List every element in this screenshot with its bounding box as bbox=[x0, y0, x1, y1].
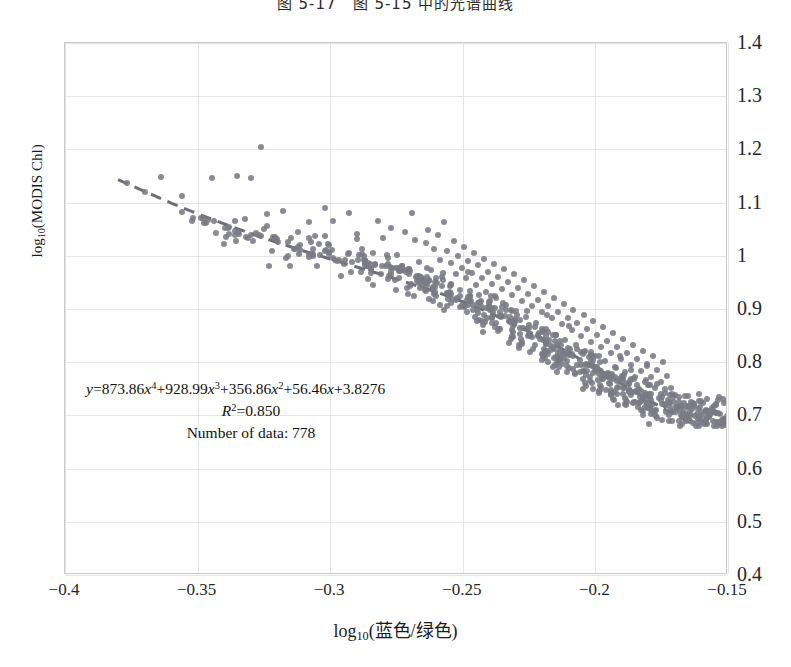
scatter-point bbox=[432, 289, 438, 295]
scatter-point bbox=[561, 355, 567, 361]
scatter-point bbox=[636, 387, 642, 393]
scatter-point bbox=[431, 246, 437, 252]
scatter-point bbox=[578, 333, 584, 339]
scatter-point bbox=[559, 321, 565, 327]
scatter-point bbox=[358, 269, 364, 275]
scatter-point bbox=[322, 205, 328, 211]
scatter-point bbox=[213, 230, 219, 236]
scatter-point bbox=[264, 211, 270, 217]
scatter-point bbox=[630, 342, 636, 348]
scatter-point bbox=[555, 309, 561, 315]
scatter-point bbox=[489, 281, 495, 287]
scatter-point bbox=[524, 308, 530, 314]
scatter-point bbox=[349, 259, 355, 265]
scatter-point bbox=[541, 289, 547, 295]
scatter-point bbox=[721, 400, 726, 406]
scatter-point bbox=[463, 275, 469, 281]
scatter-point bbox=[598, 344, 604, 350]
scatter-point bbox=[684, 403, 690, 409]
scatter-point bbox=[713, 401, 719, 407]
scatter-point bbox=[486, 299, 492, 305]
scatter-point bbox=[604, 338, 610, 344]
scatter-point bbox=[430, 298, 436, 304]
scatter-point bbox=[461, 244, 467, 250]
scatter-point bbox=[619, 375, 625, 381]
scatter-point bbox=[628, 367, 634, 373]
scatter-point bbox=[499, 286, 505, 292]
scatter-point bbox=[581, 312, 587, 318]
scatter-point bbox=[264, 223, 270, 229]
scatter-point bbox=[610, 376, 616, 382]
x-tick-label: −0.15 bbox=[707, 580, 746, 600]
scatter-point bbox=[412, 237, 418, 243]
scatter-point bbox=[475, 262, 481, 268]
scatter-point bbox=[124, 180, 130, 186]
scatter-point bbox=[248, 175, 254, 181]
scatter-point bbox=[221, 241, 227, 247]
scatter-point bbox=[516, 342, 522, 348]
scatter-point bbox=[471, 250, 477, 256]
scatter-point bbox=[416, 280, 422, 286]
scatter-point bbox=[530, 346, 536, 352]
scatter-point bbox=[620, 391, 626, 397]
scatter-point bbox=[662, 402, 668, 408]
scatter-point bbox=[495, 274, 501, 280]
scatter-point bbox=[296, 251, 302, 257]
scatter-point bbox=[583, 372, 589, 378]
scatter-point bbox=[523, 314, 529, 320]
scatter-point bbox=[570, 307, 576, 313]
scatter-point bbox=[285, 253, 291, 259]
scatter-point bbox=[501, 266, 507, 272]
scatter-point bbox=[596, 353, 602, 359]
scatter-point bbox=[614, 344, 620, 350]
y-tick-label: 1.1 bbox=[737, 190, 762, 213]
r-squared-line: R2=0.850 bbox=[86, 400, 416, 422]
scatter-point bbox=[704, 396, 710, 402]
scatter-point bbox=[370, 282, 376, 288]
y-tick-label: 0.6 bbox=[737, 456, 762, 479]
scatter-point bbox=[242, 216, 248, 222]
scatter-point bbox=[570, 366, 576, 372]
scatter-point bbox=[602, 358, 608, 364]
scatter-point bbox=[644, 363, 650, 369]
scatter-point bbox=[594, 332, 600, 338]
scatter-point bbox=[505, 279, 511, 285]
scatter-point bbox=[515, 285, 521, 291]
scatter-point bbox=[480, 329, 486, 335]
scatter-point bbox=[190, 215, 196, 221]
scatter-point bbox=[316, 241, 322, 247]
scatter-point bbox=[444, 248, 450, 254]
scatter-point bbox=[511, 271, 517, 277]
scatter-point bbox=[500, 300, 506, 306]
scatter-point bbox=[620, 336, 626, 342]
scatter-point bbox=[233, 238, 239, 244]
scatter-point bbox=[588, 339, 594, 345]
scatter-point bbox=[362, 257, 368, 263]
scatter-point bbox=[448, 260, 454, 266]
scatter-point bbox=[295, 229, 301, 235]
scatter-point bbox=[669, 391, 675, 397]
y-tick-label: 1 bbox=[737, 243, 747, 266]
scatter-point bbox=[574, 320, 580, 326]
scatter-point bbox=[649, 408, 655, 414]
scatter-point bbox=[423, 288, 429, 294]
y-tick-label: 1.3 bbox=[737, 84, 762, 107]
y-tick-label: 0.9 bbox=[737, 297, 762, 320]
scatter-point bbox=[211, 218, 217, 224]
scatter-point bbox=[608, 350, 614, 356]
scatter-point bbox=[236, 231, 242, 237]
scatter-point bbox=[481, 256, 487, 262]
scatter-point bbox=[662, 386, 668, 392]
scatter-point bbox=[658, 397, 664, 403]
scatter-point bbox=[551, 355, 557, 361]
scatter-point bbox=[365, 276, 371, 282]
scatter-point bbox=[664, 373, 670, 379]
scatter-point bbox=[402, 229, 408, 235]
r-squared-symbol: R bbox=[222, 402, 231, 419]
scatter-point bbox=[445, 290, 451, 296]
scatter-point bbox=[648, 374, 654, 380]
scatter-point bbox=[209, 175, 215, 181]
scatter-point bbox=[269, 248, 275, 254]
scatter-point bbox=[600, 324, 606, 330]
scatter-point bbox=[694, 411, 700, 417]
